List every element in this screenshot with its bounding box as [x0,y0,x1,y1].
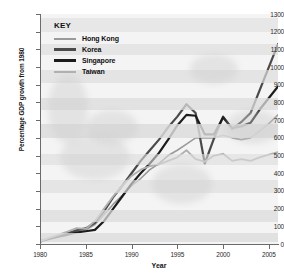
x-axis-tick-label: 1995 [157,251,197,259]
x-axis-tick [177,245,178,249]
legend-swatch [54,48,76,51]
y-axis-tick [36,67,40,68]
paper-blotch [152,164,212,204]
y-axis-line [40,14,41,245]
y-axis-tick [36,14,40,15]
y-axis-tick-label: 900 [250,81,284,88]
x-axis-tick [40,245,41,249]
x-axis-tick [86,245,87,249]
y-axis-tick-label: 1200 [250,28,284,35]
y-axis-title: Percentage GDP growth from 1980 [18,25,25,175]
y-axis-tick [36,191,40,192]
legend-item-taiwan: Taiwan [54,66,119,77]
legend-label: Singapore [82,57,115,64]
y-axis-tick [36,102,40,103]
paper-blotch [190,54,238,84]
x-axis-title: Year [40,262,278,269]
y-axis-tick-label: 500 [250,152,284,159]
background-band [40,233,278,242]
legend-items: Hong KongKoreaSingaporeTaiwan [54,33,119,77]
paper-blotch [86,110,138,144]
y-axis-tick [36,209,40,210]
y-axis-tick [36,173,40,174]
y-axis-tick-label: 700 [250,117,284,124]
legend-item-hong-kong: Hong Kong [54,33,119,44]
legend-label: Taiwan [82,68,105,75]
x-axis-tick [223,245,224,249]
y-axis-tick-label: 200 [250,205,284,212]
legend-label: Korea [82,46,101,53]
legend-swatch [54,59,76,62]
legend: KEY Hong KongKoreaSingaporeTaiwan [54,21,119,77]
paper-blotch [48,74,88,144]
y-axis-tick-label: 800 [250,99,284,106]
y-axis-tick-label: 300 [250,187,284,194]
legend-title: KEY [54,21,119,30]
x-axis-line [40,244,279,245]
y-axis-tick [36,138,40,139]
legend-label: Hong Kong [82,35,119,42]
y-axis-tick [36,226,40,227]
x-axis-tick-label: 2005 [249,251,284,259]
gdp-growth-line-chart: 0100200300400500600700800900100011001200… [0,0,284,279]
legend-swatch [54,71,76,73]
background-band [40,210,278,222]
y-axis-tick [36,32,40,33]
x-axis-tick-label: 2000 [203,251,243,259]
y-axis-tick-label: 0 [250,241,284,248]
y-axis-tick [36,156,40,157]
y-axis-tick [36,49,40,50]
y-axis-tick-label: 400 [250,170,284,177]
x-axis-tick-label: 1980 [20,251,60,259]
x-axis-tick [269,245,270,249]
x-axis-tick-label: 1985 [66,251,106,259]
y-axis-tick-label: 1100 [250,46,284,53]
legend-item-singapore: Singapore [54,55,119,66]
legend-item-korea: Korea [54,44,119,55]
y-axis-tick-label: 1300 [250,11,284,18]
y-axis-tick-label: 100 [250,223,284,230]
legend-swatch [54,38,76,40]
x-axis-tick-label: 1990 [112,251,152,259]
y-axis-tick [36,120,40,121]
x-axis-tick [132,245,133,249]
y-axis-tick-label: 1000 [250,64,284,71]
y-axis-tick-label: 600 [250,134,284,141]
y-axis-tick [36,85,40,86]
